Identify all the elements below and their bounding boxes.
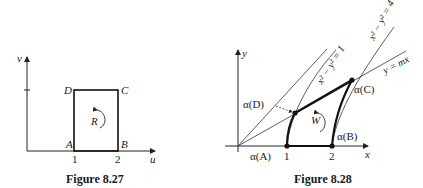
- figure-8-28: x y α(D) α(C) α(B) α(A) 1 2 W x² − y² = …: [225, 0, 411, 186]
- region-w-label: W: [311, 114, 321, 126]
- x-tick-2-label: 2: [329, 150, 335, 162]
- x-tick-1-label: 1: [284, 150, 290, 162]
- counterclockwise-arrow-icon: [97, 110, 105, 128]
- figure-8-27: u v D C A B 1 2 R Figure 8.27: [17, 52, 156, 186]
- y-axis-label: y: [241, 47, 247, 59]
- point-1: [284, 143, 289, 148]
- vertex-d-label: D: [63, 84, 72, 96]
- vertex-b-label: B: [121, 138, 128, 150]
- u-tick-2-label: 2: [115, 153, 121, 165]
- alpha-d-label: α(D): [243, 98, 264, 111]
- alpha-c-label: α(C): [354, 83, 375, 96]
- alpha-b-label: α(B): [337, 130, 358, 143]
- u-axis-label: u: [150, 153, 156, 165]
- v-axis-label: v: [17, 52, 22, 64]
- hyperbola-1-label: x² − y² = 1: [314, 43, 347, 86]
- point-alpha-c: [349, 77, 354, 82]
- caption-figure-8-28: Figure 8.28: [294, 172, 352, 186]
- alpha-a-label: α(A): [250, 150, 271, 163]
- vertex-c-label: C: [121, 84, 129, 96]
- x-axis-label: x: [364, 148, 370, 160]
- point-alpha-d: [292, 110, 297, 115]
- u-tick-1-label: 1: [72, 153, 78, 165]
- figures-canvas: u v D C A B 1 2 R Figure 8.27 x y: [0, 0, 423, 188]
- region-r-label: R: [90, 115, 98, 127]
- vertex-a-label: A: [65, 138, 73, 150]
- point-2: [329, 143, 334, 148]
- hyperbola-4-label: x² − y² = 4: [366, 0, 397, 43]
- alpha-d-pointer: [276, 106, 292, 112]
- caption-figure-8-27: Figure 8.27: [66, 172, 124, 186]
